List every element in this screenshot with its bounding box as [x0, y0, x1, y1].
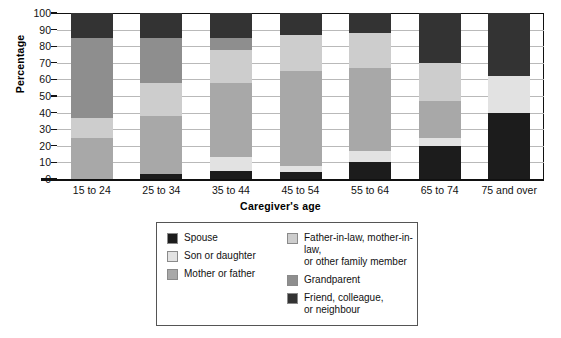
x-axis-tick-label: 75 and over	[474, 184, 544, 196]
stacked-bar[interactable]	[349, 13, 391, 179]
legend-swatch-icon	[287, 233, 298, 244]
x-axis-tick-label: 45 to 54	[266, 184, 336, 196]
y-axis-tick-mark	[51, 145, 57, 146]
legend-item-label: Mother or father	[184, 268, 255, 280]
legend-item-label: Friend, colleague, or neighbour	[304, 292, 384, 316]
y-axis-tick-label: 10	[21, 157, 51, 168]
bar-segment[interactable]	[349, 13, 391, 33]
stacked-bar[interactable]	[210, 13, 252, 179]
bar-segment[interactable]	[71, 13, 113, 38]
bar-segment[interactable]	[349, 33, 391, 68]
bar-segment[interactable]	[280, 35, 322, 72]
legend-swatch-icon	[167, 251, 178, 262]
y-axis-tick-mark	[51, 162, 57, 163]
bar-segment[interactable]	[140, 83, 182, 116]
bar-segment[interactable]	[349, 162, 391, 179]
y-axis-tick-label: 60	[21, 74, 51, 85]
y-axis-tick-label: 100	[21, 8, 51, 19]
bar-segment[interactable]	[210, 171, 252, 179]
x-axis-tick-label: 35 to 44	[196, 184, 266, 196]
legend-item[interactable]: Mother or father	[167, 268, 287, 280]
chart-root: Percentage 0102030405060708090100 15 to …	[0, 0, 561, 338]
bar-segment[interactable]	[210, 83, 252, 158]
y-axis-tick-mark	[51, 79, 57, 80]
stacked-bar[interactable]	[419, 13, 461, 179]
bar-segment[interactable]	[280, 71, 322, 166]
y-axis-tick-mark	[51, 62, 57, 63]
bar-segment[interactable]	[349, 151, 391, 163]
stacked-bar[interactable]	[280, 13, 322, 179]
bar-segment[interactable]	[280, 166, 322, 173]
x-axis-tick-label: 55 to 64	[335, 184, 405, 196]
stacked-bar[interactable]	[140, 13, 182, 179]
x-axis-tick-label: 65 to 74	[405, 184, 475, 196]
bar-segment[interactable]	[419, 146, 461, 179]
x-axis-title: Caregiver's age	[0, 200, 561, 212]
bar-segment[interactable]	[210, 13, 252, 38]
stacked-bar[interactable]	[488, 13, 530, 179]
bar-segment[interactable]	[488, 13, 530, 76]
y-axis-tick-label: 50	[21, 91, 51, 102]
bar-segment[interactable]	[419, 138, 461, 146]
bar-segment[interactable]	[488, 113, 530, 179]
y-axis-tick-label: 70	[21, 58, 51, 69]
y-axis-tick-label: 20	[21, 141, 51, 152]
bar-segment[interactable]	[419, 63, 461, 101]
bar-segment[interactable]	[488, 76, 530, 113]
bar-segment[interactable]	[140, 174, 182, 179]
legend-column-right: Father-in-law, mother-in-law, or other f…	[287, 232, 415, 322]
bar-segment[interactable]	[140, 13, 182, 38]
x-axis-tick-label: 15 to 24	[57, 184, 127, 196]
legend-column-left: SpouseSon or daughterMother or father	[167, 232, 287, 286]
bar-segment[interactable]	[280, 13, 322, 35]
y-axis-tick-mark	[51, 29, 57, 30]
x-axis-tick-label: 25 to 34	[127, 184, 197, 196]
legend-item[interactable]: Spouse	[167, 232, 287, 244]
bar-segment[interactable]	[71, 138, 113, 180]
y-axis-tick-mark	[51, 12, 57, 13]
bar-segment[interactable]	[210, 38, 252, 50]
bar-segment[interactable]	[349, 68, 391, 151]
bar-segment[interactable]	[71, 118, 113, 138]
legend-swatch-icon	[167, 269, 178, 280]
legend-item-label: Father-in-law, mother-in-law, or other f…	[304, 232, 415, 268]
y-axis-tick-label: 80	[21, 41, 51, 52]
bar-segment[interactable]	[210, 50, 252, 83]
legend-swatch-icon	[287, 275, 298, 286]
y-axis-tick-mark	[51, 178, 57, 179]
y-axis-tick-label: 90	[21, 24, 51, 35]
legend: SpouseSon or daughterMother or father Fa…	[156, 222, 418, 326]
legend-item[interactable]: Father-in-law, mother-in-law, or other f…	[287, 232, 415, 268]
legend-item[interactable]: Son or daughter	[167, 250, 287, 262]
legend-item-label: Grandparent	[304, 274, 360, 286]
legend-item-label: Spouse	[184, 232, 218, 244]
bar-segment[interactable]	[419, 101, 461, 138]
stacked-bar[interactable]	[71, 13, 113, 179]
y-axis-tick-label: 0	[21, 174, 51, 185]
y-axis-tick-mark	[51, 129, 57, 130]
legend-item[interactable]: Grandparent	[287, 274, 415, 286]
legend-item[interactable]: Friend, colleague, or neighbour	[287, 292, 415, 316]
bar-segment[interactable]	[140, 116, 182, 174]
legend-item-label: Son or daughter	[184, 250, 256, 262]
y-axis-tick-mark	[51, 46, 57, 47]
bar-segment[interactable]	[419, 13, 461, 63]
plot-area: 0102030405060708090100	[57, 13, 544, 179]
y-axis-tick-label: 40	[21, 107, 51, 118]
legend-swatch-icon	[287, 293, 298, 304]
bar-segment[interactable]	[280, 172, 322, 179]
legend-swatch-icon	[167, 233, 178, 244]
y-axis-tick-mark	[51, 112, 57, 113]
bar-segment[interactable]	[140, 38, 182, 83]
bar-segment[interactable]	[210, 157, 252, 170]
y-axis-tick-mark	[51, 95, 57, 96]
y-axis-tick-label: 30	[21, 124, 51, 135]
bar-segment[interactable]	[71, 38, 113, 118]
